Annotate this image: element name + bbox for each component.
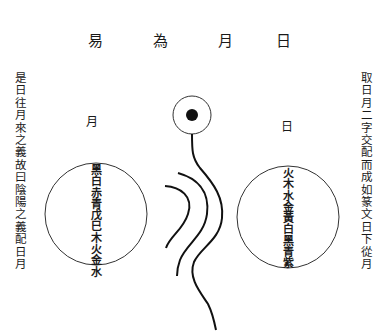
diagram-graphics [0, 0, 389, 334]
sun-symbol-dot [186, 109, 198, 121]
left-curve [165, 186, 189, 248]
main-serpentine-line [192, 134, 222, 330]
sun-circle-text: 火木水金黃白黑青紫 [282, 167, 293, 269]
moon-circle-text: 黑白赤青戊巳木火金水 [90, 164, 101, 277]
